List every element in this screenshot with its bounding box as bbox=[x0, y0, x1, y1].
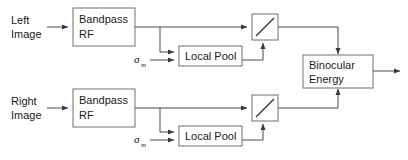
wire-bandpass-top-branch-to-pool bbox=[160, 27, 174, 52]
sigma-bottom-subscript: m bbox=[141, 141, 146, 149]
block-label-bandpass-top-line1: Bandpass bbox=[79, 13, 128, 25]
wire-divider-bottom-to-binocular bbox=[278, 89, 338, 108]
input-label-right-line2: Image bbox=[11, 109, 42, 121]
input-label-left-line2: Image bbox=[11, 28, 42, 40]
block-label-binocular-energy-line1: Binocular bbox=[309, 59, 355, 71]
wire-pool-bottom-to-divider bbox=[242, 124, 263, 140]
block-label-local-pool-bottom: Local Pool bbox=[185, 130, 236, 142]
wire-bandpass-bottom-branch-to-pool bbox=[160, 108, 174, 132]
block-diagram: Left Image Right Image Bandpass RF Bandp… bbox=[0, 0, 408, 160]
sigma-top-subscript: m bbox=[141, 61, 146, 69]
block-label-local-pool-top: Local Pool bbox=[185, 50, 236, 62]
wire-divider-top-to-binocular bbox=[278, 27, 338, 54]
block-label-bandpass-bottom-line1: Bandpass bbox=[79, 94, 128, 106]
input-label-right-line1: Right bbox=[11, 95, 37, 107]
block-label-binocular-energy-line2: Energy bbox=[309, 73, 344, 85]
input-label-left-line1: Left bbox=[11, 14, 29, 26]
sigma-bottom-symbol: σ bbox=[134, 133, 140, 145]
block-label-bandpass-bottom-line2: RF bbox=[79, 109, 94, 121]
block-label-bandpass-top-line2: RF bbox=[79, 28, 94, 40]
wire-pool-top-to-divider bbox=[242, 43, 263, 60]
sigma-top-symbol: σ bbox=[134, 53, 140, 65]
